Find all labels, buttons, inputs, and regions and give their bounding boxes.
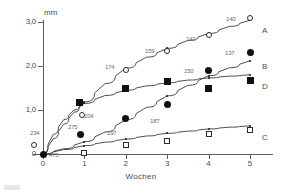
data-point-d: [76, 99, 83, 106]
point-value-label: 150: [184, 68, 193, 74]
point-value-label: 234: [30, 130, 39, 136]
data-point-b: [205, 67, 212, 74]
point-value-label: 159: [145, 48, 154, 54]
fit-dot: [208, 77, 210, 79]
fit-curve-b: [43, 61, 250, 154]
fit-dot: [249, 60, 251, 62]
data-point-c: [247, 127, 253, 133]
data-point-c: [206, 131, 212, 137]
data-point-c: [164, 138, 170, 144]
point-value-label: 275: [68, 124, 77, 130]
data-point-a: [164, 48, 170, 54]
data-point-b: [77, 131, 84, 138]
data-point-d: [164, 78, 171, 85]
fit-curve-a: [43, 20, 250, 154]
point-value-label: 197: [107, 130, 116, 136]
point-value-label: 475: [49, 152, 58, 158]
data-point-b: [40, 151, 47, 158]
data-point-a: [206, 32, 212, 38]
data-point-d: [247, 77, 254, 84]
point-value-label: 187: [150, 118, 159, 124]
fit-dot: [208, 128, 210, 130]
point-value-label: 174: [105, 64, 114, 70]
data-point-c: [123, 142, 129, 148]
fit-dot: [249, 74, 251, 76]
data-point-c: [81, 150, 87, 156]
series-label-d: D: [262, 83, 268, 91]
series-label-b: B: [262, 63, 267, 71]
point-value-label: 204: [84, 113, 93, 119]
curve-layer: [0, 0, 282, 195]
data-point-d: [122, 85, 129, 92]
data-point-b: [247, 49, 254, 56]
fit-dot: [125, 138, 127, 140]
series-label-a: A: [262, 27, 267, 35]
point-value-label: 140: [226, 16, 235, 22]
data-point-b: [164, 101, 171, 108]
fit-curve-c: [43, 126, 250, 154]
fit-curve-d: [43, 75, 250, 154]
chart-container: mm Wochen 01,02,03,0 012345 234475275204…: [0, 0, 282, 195]
data-point-a: [247, 15, 253, 21]
series-label-c: C: [262, 134, 268, 142]
page-artifact: [4, 185, 20, 190]
point-value-label: 142: [186, 36, 195, 42]
data-point-d: [205, 85, 212, 92]
point-value-label: 137: [225, 50, 234, 56]
